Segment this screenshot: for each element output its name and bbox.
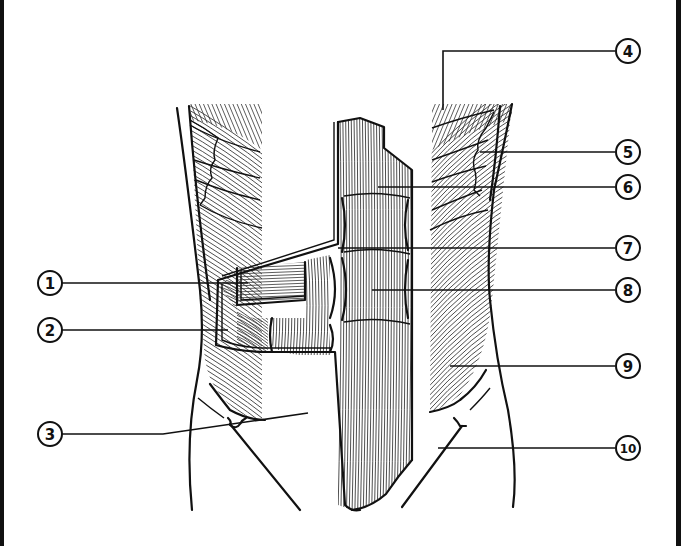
callout-number: 7 [623, 240, 633, 258]
callout-number: 9 [623, 358, 633, 376]
callout-10: 10 [438, 436, 640, 460]
callout-number: 8 [623, 282, 633, 300]
callout-number: 5 [623, 144, 633, 162]
abdominal-wall-illustration: 12345678910 [0, 0, 681, 546]
callout-number: 1 [45, 275, 55, 293]
rectus-left-hatching [266, 255, 331, 358]
leader-line [62, 413, 308, 434]
callout-6: 6 [378, 175, 640, 199]
rectus-abdominis-hatching [338, 115, 411, 515]
callout-number: 3 [45, 426, 55, 444]
callout-4: 4 [443, 39, 640, 110]
callout-9: 9 [450, 354, 640, 378]
internal-oblique-hatching [235, 259, 310, 301]
leader-line [443, 51, 615, 110]
callout-2: 2 [38, 318, 228, 342]
pectoral-top-hatching [185, 100, 517, 160]
external-oblique-right-hatching [425, 80, 520, 491]
callout-3: 3 [38, 413, 308, 446]
callout-number: 10 [620, 442, 637, 456]
diagram-canvas: 12345678910 [0, 0, 681, 546]
callout-number: 4 [623, 43, 633, 61]
callout-number: 2 [45, 322, 55, 340]
callout-number: 6 [623, 179, 633, 197]
callout-1: 1 [38, 271, 248, 295]
